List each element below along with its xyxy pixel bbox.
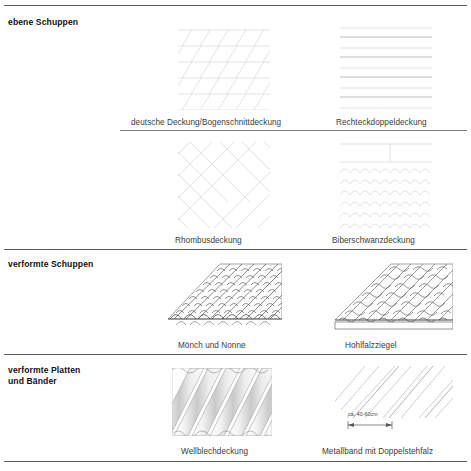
illustration-rechteckdoppeldeckung: [340, 24, 432, 110]
row-label-ebene-schuppen: ebene Schuppen: [8, 17, 78, 28]
illustration-wellblechdeckung: [172, 368, 272, 436]
row-label-line2: und Bänder: [8, 376, 57, 386]
caption-rhombusdeckung: Rhombusdeckung: [175, 236, 242, 245]
caption-biberschwanzdeckung: Biberschwanzdeckung: [332, 236, 415, 245]
illustration-hohlfalzziegel: [325, 262, 453, 334]
divider-bottom: [4, 461, 467, 462]
illustration-deutsche-deckung: [178, 24, 270, 110]
divider-row2: [4, 249, 467, 250]
divider-row1: [120, 130, 467, 131]
caption-metallband-doppelstehfalz: Metallband mit Doppelstehfalz: [322, 447, 433, 456]
caption-deutsche-deckung: deutsche Deckung/Bogenschnittdeckung: [131, 118, 281, 127]
row-label-verformte-schuppen: verformte Schuppen: [8, 259, 93, 270]
roofing-types-chart: ebene Schuppen: [0, 0, 471, 471]
illustration-rhombusdeckung: [178, 142, 270, 228]
dimension-label-metallband: ca. 40-60cm: [348, 411, 378, 417]
divider-top: [4, 5, 467, 6]
row-label-line1: verformte Platten: [8, 365, 80, 375]
caption-wellblechdeckung: Wellblechdeckung: [181, 447, 248, 456]
caption-moench-und-nonne: Mönch und Nonne: [178, 341, 246, 350]
caption-hohlfalzziegel: Hohlfalzziegel: [345, 341, 397, 350]
illustration-biberschwanzdeckung: [340, 142, 432, 228]
row-label-verformte-platten: verformte Platten und Bänder: [8, 365, 80, 387]
dimension-arrow-metallband: [345, 420, 405, 430]
caption-rechteckdoppeldeckung: Rechteckdoppeldeckung: [336, 118, 427, 127]
illustration-moench-und-nonne: [160, 262, 282, 334]
divider-row3: [4, 354, 467, 355]
